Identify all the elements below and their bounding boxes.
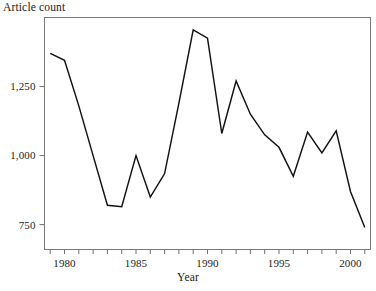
x-axis-tick-label: 1990	[196, 257, 219, 269]
y-axis-tick-label: 750	[19, 219, 36, 231]
x-axis-tick-label: 1995	[268, 257, 291, 269]
y-axis-tick-label: 1,000	[10, 149, 36, 161]
data-series-line	[50, 30, 365, 227]
line-chart-plot: 198019851990199520007501,0001,250	[0, 0, 376, 291]
y-axis-tick-label: 1,250	[10, 80, 36, 92]
x-axis-label: Year	[0, 271, 376, 284]
chart-figure: Article count 198019851990199520007501,0…	[0, 0, 376, 291]
x-axis-tick-label: 1980	[53, 257, 76, 269]
plot-frame	[45, 18, 371, 250]
x-axis-tick-label: 2000	[339, 257, 362, 269]
x-axis-tick-label: 1985	[125, 257, 148, 269]
